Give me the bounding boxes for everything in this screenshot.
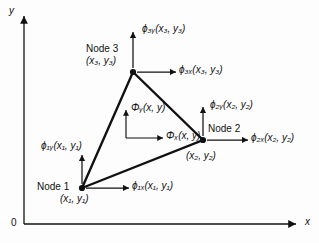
interior-field-y-label: Φᵧ(x, y) — [131, 103, 165, 114]
node3-vertex-dot — [130, 69, 136, 75]
y-axis-label: y — [9, 6, 14, 17]
node2-coord-label: (x₂, y₂) — [186, 151, 216, 162]
node2-name-label: Node 2 — [208, 124, 240, 135]
diagram-vector-layer — [0, 0, 319, 243]
node1-name-label: Node 1 — [37, 182, 69, 193]
node3-name-label: Node 3 — [86, 44, 118, 55]
interior-field-x-label: Φₓ(x, y) — [166, 131, 200, 142]
node1-dof-x-label: ϕ₁ₓ(x₁, y₁) — [132, 181, 173, 192]
node1-dof-y-label: ϕ₁ᵧ(x₁, y₁) — [41, 141, 82, 152]
node3-dof-x-label: ϕ₃ₓ(x₃, y₃) — [179, 65, 222, 76]
node2-dof-y-label: ϕ₂ᵧ(x₂, y₂) — [210, 100, 253, 111]
node2-dof-x-label: ϕ₂ₓ(x₂, y₂) — [251, 133, 294, 144]
node1-coord-label: (x₁, y₁) — [60, 194, 89, 205]
node3-coord-label: (x₃, y₃) — [86, 56, 116, 67]
node3-dof-y-label: ϕ₃ᵧ(x₃, y₃) — [142, 24, 185, 35]
origin-label: 0 — [11, 218, 17, 229]
finite-element-triangle-diagram: y x 0 Node 3 (x₃, y₃) ϕ₃ᵧ(x₃, y₃) ϕ₃ₓ(x₃… — [0, 0, 319, 243]
x-axis-label: x — [305, 217, 310, 228]
node2-vertex-dot — [200, 137, 206, 143]
node1-vertex-dot — [79, 185, 85, 191]
